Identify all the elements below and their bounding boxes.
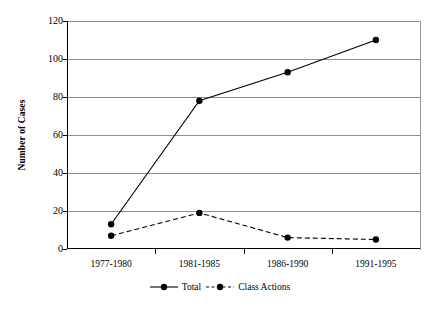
data-point <box>108 221 114 227</box>
chart-legend: TotalClass Actions <box>0 281 439 293</box>
x-axis-tick-mark <box>244 249 245 254</box>
y-axis-tick-label: 20 <box>29 206 63 216</box>
y-axis-tick-mark <box>63 249 67 250</box>
y-axis-tick-labels: 020406080100120 <box>29 21 63 249</box>
legend-label: Class Actions <box>238 281 290 293</box>
y-axis-title: Number of Cases <box>14 21 30 249</box>
x-axis-tick-label: 1986-1990 <box>242 258 334 270</box>
plot-frame-right <box>420 21 421 250</box>
series-line-total <box>111 40 376 224</box>
x-axis-tick-mark <box>332 249 333 254</box>
line-chart: Number of Cases 020406080100120 1977-198… <box>0 0 439 310</box>
legend-label: Total <box>182 281 201 293</box>
y-axis-tick-label: 120 <box>29 16 63 26</box>
y-axis-tick-label: 80 <box>29 92 63 102</box>
y-axis-tick-label: 40 <box>29 168 63 178</box>
data-point <box>284 234 290 240</box>
y-axis-tick-label: 100 <box>29 54 63 64</box>
legend-item-class-actions: Class Actions <box>205 281 290 293</box>
x-axis-tick-mark <box>155 249 156 254</box>
x-axis-tick-label: 1981-1985 <box>153 258 245 270</box>
y-axis-tick-label: 60 <box>29 130 63 140</box>
series-line-class-actions <box>111 213 376 240</box>
y-axis-tick-label: 0 <box>29 244 63 254</box>
y-axis-title-container: Number of Cases <box>14 21 30 249</box>
data-point <box>196 210 202 216</box>
x-axis-tick-label: 1991-1995 <box>330 258 422 270</box>
data-point <box>373 37 379 43</box>
data-point <box>196 98 202 104</box>
data-point <box>284 69 290 75</box>
x-axis-tick-label: 1977-1980 <box>65 258 157 270</box>
legend-item-total: Total <box>149 281 201 293</box>
legend-marker-icon <box>149 282 179 292</box>
series-layer <box>67 21 420 249</box>
data-point <box>373 236 379 242</box>
legend-marker-icon <box>205 282 235 292</box>
data-point <box>108 233 114 239</box>
